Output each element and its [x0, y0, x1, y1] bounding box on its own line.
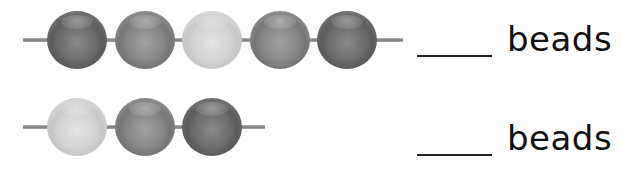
bead-light — [47, 98, 107, 156]
bead-dark — [182, 98, 242, 156]
beads-label: beads — [507, 121, 612, 155]
bead-medium — [115, 98, 175, 156]
answer-blank[interactable] — [417, 154, 492, 156]
bead-row-2: beads — [0, 0, 622, 80]
